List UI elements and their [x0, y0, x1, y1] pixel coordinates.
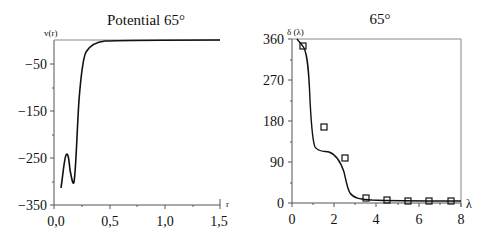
- right-ytick: 180: [263, 114, 284, 129]
- data-markers: [300, 43, 454, 204]
- right-xlabel: λ: [466, 197, 472, 211]
- left-xtick: 0,5: [101, 214, 119, 229]
- right-ytick: 0: [277, 196, 284, 211]
- left-xtick: 0,0: [47, 214, 65, 229]
- left-ytick: −50: [25, 57, 47, 72]
- right-ytick: 360: [263, 32, 284, 47]
- potential-curve: [61, 40, 220, 188]
- right-xtick: 0: [289, 212, 296, 227]
- left-ytick: −250: [18, 151, 47, 166]
- left-chart: Potential 65° v(r) −50 −150 −250 −350: [18, 12, 229, 229]
- left-xlabel: r: [226, 199, 229, 209]
- left-ylabel: v(r): [44, 28, 58, 38]
- right-xtick: 4: [373, 212, 380, 227]
- left-xtick: 1,0: [156, 214, 174, 229]
- left-x-ticks: [54, 205, 220, 209]
- marker: [342, 155, 348, 161]
- right-x-ticks: [292, 203, 461, 207]
- marker: [321, 124, 327, 130]
- right-xtick: 2: [331, 212, 338, 227]
- right-chart: 65° δ (λ) 360 270 180 90 0: [263, 11, 472, 227]
- right-title: 65°: [370, 11, 391, 27]
- figure: Potential 65° v(r) −50 −150 −250 −350: [0, 0, 486, 242]
- right-xtick: 8: [458, 212, 465, 227]
- right-xtick: 6: [416, 212, 423, 227]
- right-y-ticks: [288, 39, 292, 203]
- left-xtick: 1,5: [210, 214, 228, 229]
- right-ytick: 270: [263, 73, 284, 88]
- right-ylabel: δ (λ): [287, 27, 304, 37]
- right-ytick: 90: [270, 155, 284, 170]
- left-ytick: −150: [18, 104, 47, 119]
- left-y-ticks: [50, 64, 54, 205]
- phase-curve: [297, 39, 461, 201]
- left-title: Potential 65°: [107, 12, 185, 28]
- left-ytick: −350: [18, 198, 47, 213]
